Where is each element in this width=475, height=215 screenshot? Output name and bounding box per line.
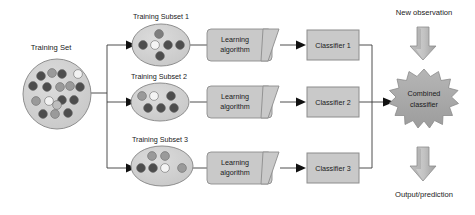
- data-point-dark: [37, 72, 46, 81]
- combined-classifier-burst-shape: [389, 69, 459, 128]
- data-point-dark: [137, 164, 146, 173]
- data-point-light: [150, 92, 159, 101]
- diagram-canvas: Training Set: [0, 0, 475, 215]
- learning-algorithm-3-ribbon: [261, 152, 279, 184]
- training-subset-3-group[interactable]: Training Subset 3: [131, 135, 193, 186]
- data-point-dark: [149, 164, 158, 173]
- data-point-dark: [76, 83, 85, 92]
- data-point-light: [74, 70, 83, 79]
- new-observation-down-arrow-icon: [410, 27, 436, 60]
- training-set-label: Training Set: [31, 43, 73, 52]
- data-point-mid: [53, 101, 62, 110]
- arrowhead-to-classifier-3: [296, 164, 306, 173]
- classifier-2-label: Classifier 2: [315, 98, 351, 107]
- data-point-dark: [176, 41, 185, 50]
- arrowhead-to-classifier-2: [296, 98, 306, 107]
- data-point-mid: [148, 152, 157, 161]
- data-point-mid: [48, 69, 57, 78]
- data-point-dark: [167, 92, 176, 101]
- training-subset-3-label: Training Subset 3: [132, 135, 188, 144]
- data-point-dark: [64, 109, 73, 118]
- learning-algorithm-1-label-line1: Learning: [221, 35, 249, 44]
- data-point-light: [45, 97, 54, 106]
- training-subset-2-ellipse: [131, 83, 189, 121]
- data-point-dark: [139, 41, 148, 50]
- learning-algorithm-2-ribbon: [261, 86, 279, 118]
- data-point-dark: [39, 110, 48, 119]
- output-prediction-label: Output/prediction: [395, 190, 453, 199]
- learning-algorithm-3-label-line2: algorithm: [220, 168, 250, 177]
- training-set-ellipse: [23, 59, 91, 129]
- learning-algorithm-2-label-line2: algorithm: [220, 102, 250, 111]
- learning-algorithm-1-label-line2: algorithm: [220, 45, 250, 54]
- combined-classifier-label-line1: Combined: [408, 89, 441, 98]
- data-point-dark: [170, 104, 179, 113]
- learning-algorithm-2-label-line1: Learning: [221, 92, 249, 101]
- data-point-dark: [70, 96, 79, 105]
- training-subset-1-label: Training Subset 1: [133, 12, 189, 21]
- data-point-light: [151, 41, 160, 50]
- learning-algorithm-3-label-line1: Learning: [221, 158, 249, 167]
- training-subset-2-label: Training Subset 2: [131, 72, 187, 81]
- learning-algorithm-1[interactable]: Learning algorithm: [207, 29, 279, 61]
- data-point-mid: [178, 164, 187, 173]
- combined-classifier-label-line2: classifier: [410, 100, 439, 109]
- data-point-mid: [66, 82, 75, 91]
- learning-algorithm-1-ribbon: [261, 29, 279, 61]
- classifier-3-label: Classifier 3: [315, 164, 351, 173]
- ensemble-learning-diagram: Training Set: [0, 0, 475, 215]
- data-point-dark: [157, 104, 166, 113]
- data-point-dark: [43, 83, 52, 92]
- training-subset-1-group[interactable]: Training Subset 1: [132, 12, 190, 66]
- classifier-1-label: Classifier 1: [315, 41, 351, 50]
- data-point-mid: [155, 30, 164, 39]
- data-point-dark: [156, 52, 165, 61]
- learning-algorithm-3[interactable]: Learning algorithm: [207, 152, 279, 184]
- data-point-mid: [32, 97, 41, 106]
- arrowhead-to-classifier-1: [296, 41, 306, 50]
- data-point-light: [161, 164, 170, 173]
- data-point-mid: [161, 152, 170, 161]
- connector-algorithm-to-classifier: [280, 45, 297, 168]
- classifier-3[interactable]: Classifier 3: [307, 153, 359, 183]
- output-prediction-down-arrow-icon: [410, 147, 436, 181]
- data-point-dark: [164, 41, 173, 50]
- data-point-mid: [56, 83, 65, 92]
- classifier-1[interactable]: Classifier 1: [307, 30, 359, 60]
- data-point-dark: [144, 104, 153, 113]
- connector-subset-to-algorithm: [190, 45, 207, 168]
- connector-classifiers-to-combined: [359, 45, 383, 168]
- data-point-dark: [58, 70, 67, 79]
- classifier-2[interactable]: Classifier 2: [307, 87, 359, 117]
- combined-classifier[interactable]: Combined classifier: [389, 69, 459, 128]
- training-set-group[interactable]: Training Set: [23, 43, 91, 129]
- data-point-dark: [29, 82, 38, 91]
- data-point-mid: [138, 92, 147, 101]
- new-observation-label: New observation: [396, 8, 453, 17]
- learning-algorithm-2[interactable]: Learning algorithm: [207, 86, 279, 118]
- connector-training-set-to-subsets: [90, 45, 126, 168]
- training-subset-2-group[interactable]: Training Subset 2: [131, 72, 189, 121]
- data-point-mid: [51, 110, 60, 119]
